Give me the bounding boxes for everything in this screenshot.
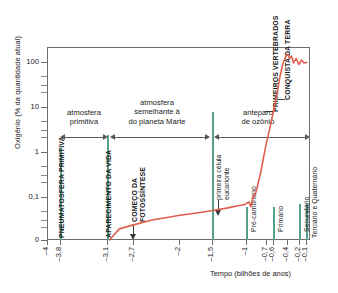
oxygen-curve-svg: [0, 0, 338, 293]
oxygen-curve-line: [109, 54, 306, 240]
oxygen-history-chart: Oxigênio (% da quantidade atual) 100 10 …: [0, 0, 338, 293]
